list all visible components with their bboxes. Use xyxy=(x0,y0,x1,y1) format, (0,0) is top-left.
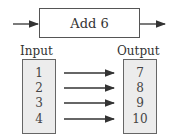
output-value-1: 7 xyxy=(124,66,156,80)
input-value-3: 3 xyxy=(23,96,55,110)
input-value-2: 2 xyxy=(23,81,55,95)
output-value-3: 9 xyxy=(124,96,156,110)
function-label: Add 6 xyxy=(70,16,108,31)
function-box: Add 6 xyxy=(39,8,140,38)
output-label: Output xyxy=(117,44,160,58)
input-label: Input xyxy=(20,44,53,58)
output-column-box: 7 8 9 10 xyxy=(123,59,157,134)
input-value-4: 4 xyxy=(23,112,55,126)
output-value-2: 8 xyxy=(124,81,156,95)
input-value-1: 1 xyxy=(23,66,55,80)
output-value-4: 10 xyxy=(124,112,156,126)
input-column-box: 1 2 3 4 xyxy=(22,59,56,134)
